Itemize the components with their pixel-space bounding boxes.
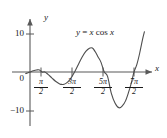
x-tick-label-pi-over-2-denominator: 2 xyxy=(34,88,48,96)
x-tick-label-3pi-over-2: 3π 2 xyxy=(63,78,81,96)
x-tick-label-pi-over-2-numerator: π xyxy=(34,78,48,86)
x-axis-label: x xyxy=(155,64,159,73)
x-tick-label-7pi-over-2-numerator: 7π xyxy=(125,78,143,86)
x-axis-arrowhead xyxy=(146,69,153,75)
x-tick-label-3pi-over-2-numerator: 3π xyxy=(63,78,81,86)
x-tick-label-5pi-over-2-numerator: 5π xyxy=(94,78,112,86)
y-axis-label: y xyxy=(44,13,48,22)
graph-figure: y x 10 0 −10 π 2 3π 2 5π 2 7π 2 y = x co… xyxy=(0,0,167,138)
equation-argument-x: x xyxy=(110,27,114,37)
y-tick-label-minus-10: −10 xyxy=(3,106,24,115)
y-tick-label-10: 10 xyxy=(9,29,24,38)
equation-cos-function: cos xyxy=(96,27,108,37)
curve-equation-annotation: y = x cos x xyxy=(76,27,114,37)
x-tick-label-3pi-over-2-denominator: 2 xyxy=(63,88,81,96)
function-curve xyxy=(26,32,145,108)
x-tick-label-7pi-over-2-denominator: 2 xyxy=(125,88,143,96)
y-axis-arrowhead xyxy=(27,19,33,26)
x-tick-label-5pi-over-2: 5π 2 xyxy=(94,78,112,96)
y-tick-label-0: 0 xyxy=(13,74,24,83)
x-tick-label-7pi-over-2: 7π 2 xyxy=(125,78,143,96)
x-tick-label-5pi-over-2-denominator: 2 xyxy=(94,88,112,96)
x-tick-label-pi-over-2: π 2 xyxy=(34,78,48,96)
plot-canvas xyxy=(0,0,167,138)
